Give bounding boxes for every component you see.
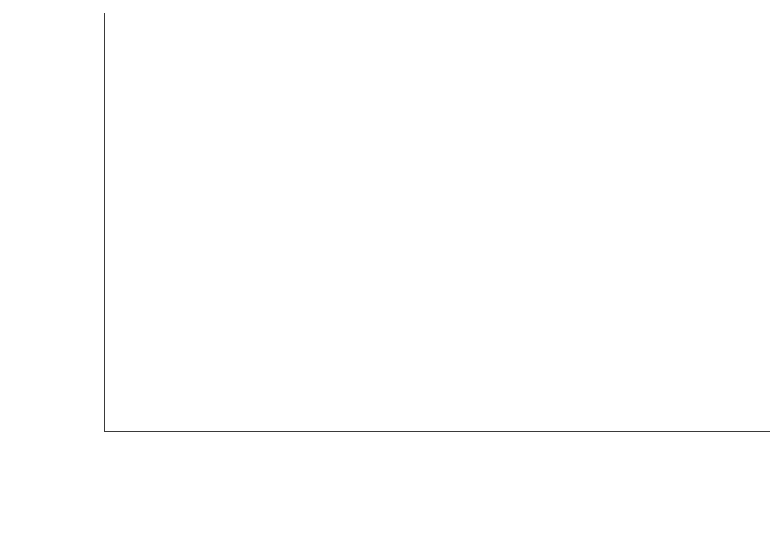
series-services (105, 13, 770, 431)
y-axis-title (26, 132, 50, 252)
figure-services-growth (0, 0, 777, 533)
plot-area (104, 13, 770, 432)
